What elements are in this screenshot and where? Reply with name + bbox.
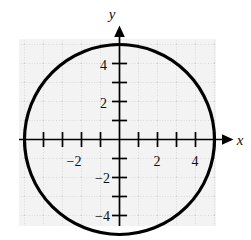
grid-lines xyxy=(19,39,216,226)
y-tick-label-2: 2 xyxy=(100,96,107,111)
x-tick-label-2: 2 xyxy=(154,154,161,169)
y-axis-label: y xyxy=(107,6,116,22)
x-tick-label-neg2: −2 xyxy=(67,154,82,169)
y-tick-label-neg2: −2 xyxy=(95,171,110,186)
x-axis-label: x xyxy=(236,132,244,148)
circle-graph-figure: y x −2 2 4 4 2 −2 −4 xyxy=(0,0,251,240)
y-tick-label-neg4: −4 xyxy=(95,209,110,224)
coordinate-plane-svg: y x −2 2 4 4 2 −2 −4 xyxy=(0,0,251,240)
y-tick-label-4: 4 xyxy=(100,58,107,73)
x-tick-label-4: 4 xyxy=(192,154,199,169)
